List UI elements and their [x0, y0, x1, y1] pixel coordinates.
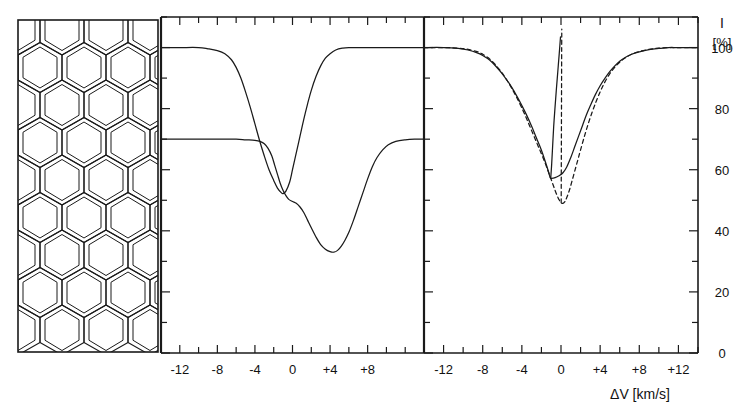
- profile-curve-narrow-solid-core: [551, 37, 561, 178]
- profile-curve-narrow-dashed-core: [561, 29, 562, 203]
- x-tick-label: 0: [289, 362, 296, 377]
- y-tick-label: 0: [718, 346, 725, 361]
- y-axis-title: I: [720, 15, 724, 31]
- honeycomb-cells: [0, 0, 282, 355]
- y-tick-label: 80: [715, 102, 729, 117]
- x-axis-title-group: ΔV [km/s]: [610, 386, 670, 402]
- profile-curve-shallow-redshifted-profile: [161, 139, 424, 252]
- y-axis-labels: 100806040200I[%]: [711, 15, 733, 361]
- honeycomb-lattice-panel: [0, 0, 282, 355]
- x-tick-label: -4: [249, 362, 261, 377]
- profile-curve-broad-blueshifted-profile: [161, 47, 424, 193]
- x-tick-label: +8: [632, 362, 647, 377]
- x-tick-label: -8: [477, 362, 489, 377]
- y-tick-label: 60: [715, 163, 729, 178]
- x-tick-label: -8: [212, 362, 224, 377]
- y-tick-label: 20: [715, 285, 729, 300]
- middle-profile-panel: -12-8-40+4+8: [161, 17, 424, 377]
- x-tick-label: +12: [667, 362, 689, 377]
- x-tick-label: +8: [360, 362, 375, 377]
- y-tick-label: 40: [715, 224, 729, 239]
- right-profile-panel: -12-8-40+4+8+12: [424, 17, 698, 377]
- spectral-line-profile-figure: -12-8-40+4+8-12-8-40+4+8+12100806040200I…: [0, 0, 755, 408]
- x-tick-label: 0: [557, 362, 564, 377]
- x-tick-label: +4: [323, 362, 338, 377]
- figure-canvas: -12-8-40+4+8-12-8-40+4+8+12100806040200I…: [0, 0, 755, 408]
- x-tick-label: -12: [170, 362, 189, 377]
- y-axis-unit: [%]: [713, 35, 732, 50]
- x-tick-label: +4: [593, 362, 608, 377]
- x-axis-title: ΔV [km/s]: [610, 386, 670, 402]
- x-tick-label: -12: [434, 362, 453, 377]
- x-tick-label: -4: [516, 362, 528, 377]
